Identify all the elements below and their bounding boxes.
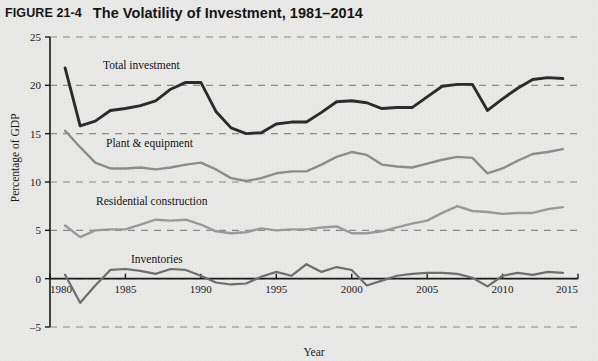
y-tick-label-0: 0 [36,273,42,285]
y-tick-label--5: –5 [29,321,42,333]
y-tick-label-25: 25 [30,31,42,43]
y-tick-label-5: 5 [36,224,42,236]
data-series-lines [65,68,563,303]
series-label-total-investment: Total investment [103,59,181,71]
y-axis-tick-labels: –50510152025 [29,31,42,333]
page-title: The Volatility of Investment, 1981–2014 [93,5,363,21]
figure-header: FIGURE 21-4 The Volatility of Investment… [0,0,598,26]
figure-container: FIGURE 21-4 The Volatility of Investment… [0,0,598,361]
y-axis-title: Percentage of GDP [9,113,22,202]
series-line-total-investment [65,68,563,134]
y-tick-label-20: 20 [30,79,42,91]
x-axis-tick-labels: 19801985199019952000200520102015 [50,283,579,295]
y-tick-label-15: 15 [30,128,42,140]
chart-plot-area: 19801985199019952000200520102015 –505101… [0,26,598,361]
x-tick-label-1985: 1985 [114,283,137,295]
x-tick-label-1995: 1995 [265,283,288,295]
x-tick-label-2010: 2010 [492,283,515,295]
series-label-residential-construction: Residential construction [96,195,208,207]
x-axis-title: Year [303,346,324,358]
series-line-inventories [65,264,563,303]
figure-number: FIGURE 21-4 [5,6,82,20]
y-tick-label-10: 10 [30,176,42,188]
x-tick-label-1990: 1990 [190,283,213,295]
x-tick-label-2015: 2015 [556,283,579,295]
series-label-inventories: Inventories [131,253,183,265]
x-tick-label-2005: 2005 [416,283,439,295]
series-label-plant-equipment: Plant & equipment [106,137,194,150]
x-tick-label-2000: 2000 [341,283,364,295]
line-chart-svg: 19801985199019952000200520102015 –505101… [0,26,598,361]
series-inline-labels: Total investmentPlant & equipmentResiden… [96,59,208,265]
series-line-residential-construction [65,206,563,237]
